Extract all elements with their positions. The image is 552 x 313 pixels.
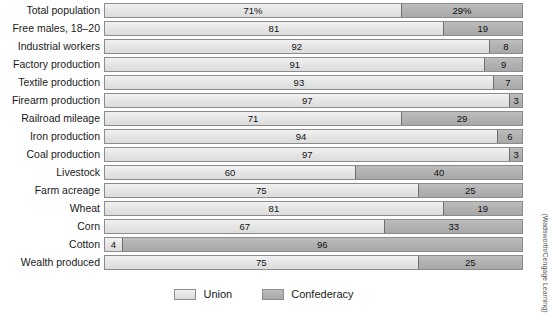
stacked-bar: 946	[104, 129, 523, 144]
chart-row: Corn6733	[0, 219, 532, 234]
legend-swatch-confederacy-icon	[262, 289, 284, 300]
bar-value-union: 75	[256, 256, 267, 269]
bar-value-union: 81	[269, 202, 280, 215]
bar-segment-union: 93	[105, 76, 493, 89]
legend-item-confederacy[interactable]: Confederacy	[262, 288, 353, 300]
bar-segment-union: 81	[105, 202, 443, 215]
row-label: Free males, 18–20	[0, 21, 104, 36]
bar-segment-union: 81	[105, 22, 443, 35]
row-label: Livestock	[0, 165, 104, 180]
row-label: Corn	[0, 219, 104, 234]
bar-value-union: 4	[111, 238, 116, 251]
bar-value-union: 93	[294, 76, 305, 89]
row-label: Coal production	[0, 147, 104, 162]
bar-value-union: 81	[269, 22, 280, 35]
stacked-bar-chart: Total population71%29%Free males, 18–208…	[0, 0, 552, 313]
stacked-bar: 6040	[104, 165, 523, 180]
row-label: Textile production	[0, 75, 104, 90]
chart-row: Farm acreage7525	[0, 183, 532, 198]
chart-rows: Total population71%29%Free males, 18–208…	[0, 3, 532, 273]
stacked-bar: 919	[104, 57, 523, 72]
bar-value-union: 75	[256, 184, 267, 197]
legend-label-union: Union	[203, 288, 232, 300]
bar-segment-union: 75	[105, 256, 418, 269]
bar-segment-confederacy: 3	[509, 148, 522, 161]
chart-row: Livestock6040	[0, 165, 532, 180]
chart-legend: Union Confederacy	[104, 288, 424, 300]
bar-segment-confederacy: 40	[355, 166, 522, 179]
bar-value-union: 60	[225, 166, 236, 179]
row-label: Cotton	[0, 237, 104, 252]
bar-segment-union: 67	[105, 220, 384, 233]
bar-value-union: 92	[292, 40, 303, 53]
chart-row: Total population71%29%	[0, 3, 532, 18]
bar-value-confederacy: 9	[501, 58, 506, 71]
chart-row: Factory production919	[0, 57, 532, 72]
bar-value-confederacy: 40	[434, 166, 445, 179]
bar-value-confederacy: 6	[507, 130, 512, 143]
bar-value-confederacy: 3	[514, 148, 519, 161]
bar-segment-confederacy: 9	[484, 58, 522, 71]
bar-value-union: 67	[239, 220, 250, 233]
row-label: Industrial workers	[0, 39, 104, 54]
bar-segment-confederacy: 19	[443, 22, 522, 35]
bar-value-union: 71%	[244, 4, 263, 17]
stacked-bar: 928	[104, 39, 523, 54]
chart-row: Cotton496	[0, 237, 532, 252]
bar-segment-union: 71%	[105, 4, 401, 17]
bar-value-union: 94	[296, 130, 307, 143]
bar-segment-confederacy: 25	[418, 256, 522, 269]
stacked-bar: 937	[104, 75, 523, 90]
stacked-bar: 8119	[104, 21, 523, 36]
bar-segment-confederacy: 29	[401, 112, 522, 125]
row-label: Factory production	[0, 57, 104, 72]
stacked-bar: 7525	[104, 183, 523, 198]
bar-segment-confederacy: 3	[509, 94, 522, 107]
stacked-bar: 7525	[104, 255, 523, 270]
stacked-bar: 973	[104, 93, 523, 108]
bar-value-confederacy: 19	[478, 202, 489, 215]
chart-row: Wealth produced7525	[0, 255, 532, 270]
bar-segment-confederacy: 33	[384, 220, 522, 233]
bar-value-confederacy: 25	[465, 184, 476, 197]
legend-label-confederacy: Confederacy	[291, 288, 353, 300]
row-label: Iron production	[0, 129, 104, 144]
bar-value-confederacy: 7	[505, 76, 510, 89]
bar-segment-confederacy: 25	[418, 184, 522, 197]
bar-segment-union: 97	[105, 94, 509, 107]
bar-segment-union: 94	[105, 130, 497, 143]
bar-segment-union: 75	[105, 184, 418, 197]
bar-value-union: 97	[302, 94, 313, 107]
chart-row: Iron production946	[0, 129, 532, 144]
bar-segment-union: 71	[105, 112, 401, 125]
bar-segment-union: 60	[105, 166, 355, 179]
chart-row: Railroad mileage7129	[0, 111, 532, 126]
bar-segment-union: 97	[105, 148, 509, 161]
stacked-bar: 8119	[104, 201, 523, 216]
bar-segment-confederacy: 7	[493, 76, 522, 89]
legend-swatch-union-icon	[174, 289, 196, 300]
row-label: Wealth produced	[0, 255, 104, 270]
bar-value-union: 97	[302, 148, 313, 161]
bar-value-confederacy: 33	[448, 220, 459, 233]
bar-value-union: 71	[248, 112, 259, 125]
chart-row: Coal production973	[0, 147, 532, 162]
chart-row: Free males, 18–208119	[0, 21, 532, 36]
stacked-bar: 496	[104, 237, 523, 252]
chart-row: Wheat8119	[0, 201, 532, 216]
chart-row: Firearm production973	[0, 93, 532, 108]
stacked-bar: 973	[104, 147, 523, 162]
bar-segment-confederacy: 8	[489, 40, 522, 53]
bar-segment-union: 92	[105, 40, 489, 53]
bar-segment-union: 4	[105, 238, 122, 251]
bar-segment-confederacy: 6	[497, 130, 522, 143]
bar-value-confederacy: 96	[317, 238, 328, 251]
legend-item-union[interactable]: Union	[174, 288, 232, 300]
chart-row: Textile production937	[0, 75, 532, 90]
row-label: Farm acreage	[0, 183, 104, 198]
credit-attribution: (Wadsworth/Cengage Learning)	[540, 215, 550, 310]
bar-value-confederacy: 25	[465, 256, 476, 269]
bar-value-confederacy: 29%	[453, 4, 472, 17]
bar-value-confederacy: 29	[457, 112, 468, 125]
row-label: Firearm production	[0, 93, 104, 108]
